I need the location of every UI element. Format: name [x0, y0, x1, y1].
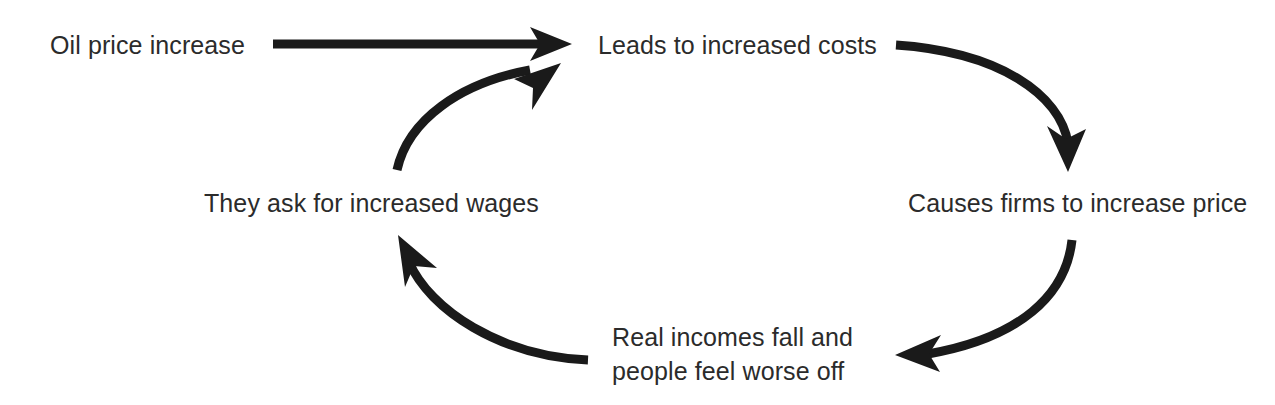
node-label-real-incomes-fall: Real incomes fall and people feel worse … [612, 320, 853, 388]
arrow-oil-to-costs [273, 27, 572, 61]
node-label-causes-firms-to-increase-price: Causes firms to increase price [908, 186, 1247, 220]
node-label-line-1: Real incomes fall and [612, 320, 853, 354]
diagram-canvas: Oil price increase Leads to increased co… [0, 0, 1275, 405]
node-label-leads-to-increased-costs: Leads to increased costs [598, 28, 877, 62]
node-label-line-2: people feel worse off [612, 354, 853, 388]
arrow-wages-to-costs [397, 63, 561, 170]
node-label-they-ask-for-increased-wages: They ask for increased wages [204, 186, 539, 220]
node-label-oil-price-increase: Oil price increase [50, 28, 245, 62]
arrow-incomes-to-wages [398, 235, 588, 360]
arrow-firms-to-incomes [895, 240, 1072, 372]
arrow-costs-to-firms [896, 45, 1086, 172]
